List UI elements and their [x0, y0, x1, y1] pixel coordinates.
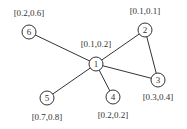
node-1: 1[0.1,0.2] [81, 39, 112, 71]
node-interval-label: [0.7,0.8] [32, 112, 63, 122]
node-interval-label: [0.1,0.1] [130, 6, 161, 16]
node-id-text: 5 [45, 93, 50, 103]
graph-diagram: 1[0.1,0.2]2[0.1,0.1]3[0.3,0.4]4[0.2,0.2]… [0, 0, 187, 129]
node-id-text: 6 [27, 27, 32, 37]
node-interval-label: [0.1,0.2] [81, 39, 112, 49]
node-interval-label: [0.3,0.4] [143, 92, 174, 102]
node-interval-label: [0.2,0.2] [98, 110, 129, 120]
edge-1-3 [96, 64, 158, 80]
node-interval-label: [0.2,0.6] [14, 8, 45, 18]
node-id-text: 4 [111, 92, 116, 102]
node-id-text: 3 [156, 75, 161, 85]
node-id-text: 2 [143, 25, 148, 35]
edge-2-3 [145, 30, 158, 80]
nodes: 1[0.1,0.2]2[0.1,0.1]3[0.3,0.4]4[0.2,0.2]… [14, 6, 174, 122]
node-6: 6[0.2,0.6] [14, 8, 45, 39]
node-2: 2[0.1,0.1] [130, 6, 161, 37]
node-id-text: 1 [94, 59, 99, 69]
node-4: 4[0.2,0.2] [98, 90, 129, 120]
node-5: 5[0.7,0.8] [32, 91, 63, 122]
edge-1-5 [47, 64, 96, 98]
